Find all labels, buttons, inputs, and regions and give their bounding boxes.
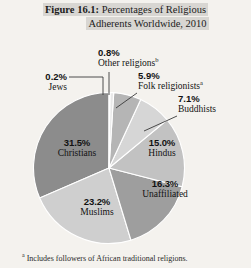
figure-footnote: a Includes followers of African traditio… [22, 253, 188, 264]
callout-other-religions: 0.8% Other religionsb [98, 47, 159, 69]
slice-label-unaffiliated: 16.3% Unaffiliated [129, 178, 201, 200]
slice-name-other-religions: Other religionsb [98, 58, 159, 69]
pie-chart [33, 92, 185, 244]
slice-value-jews: 0.2% [17, 71, 67, 82]
figure-number: Figure 16.1: [45, 4, 99, 15]
slice-value-other-religions: 0.8% [98, 47, 159, 58]
callout-jews: 0.2% Jews [17, 71, 67, 93]
slice-value-christians: 31.5% [40, 137, 114, 148]
figure-title-line-1: Figure 16.1: Percentages of Religious [0, 3, 251, 17]
slice-name-folk-religionists: Folk religionistsa [138, 81, 203, 92]
figure-title-text-1: Percentages of Religious [102, 4, 206, 15]
slice-name-unaffiliated: Unaffiliated [129, 189, 201, 200]
callout-buddhists: 7.1% Buddhists [178, 93, 216, 115]
slice-value-hindus: 15.0% [131, 137, 193, 148]
pie-chart-svg [33, 92, 185, 244]
folk-religionists-text: Folk religionists [138, 81, 200, 91]
slice-label-christians: 31.5% Christians [40, 137, 114, 159]
callout-folk-religionists: 5.9% Folk religionistsa [138, 70, 203, 92]
slice-name-christians: Christians [40, 148, 114, 159]
figure-title-line-2: Adherents Worldwide, 2010 [0, 17, 251, 31]
slice-name-muslims: Muslims [64, 207, 130, 218]
slice-label-muslims: 23.2% Muslims [64, 196, 130, 218]
folk-religionists-footnote-marker: a [200, 79, 203, 86]
slice-value-buddhists: 7.1% [178, 93, 216, 104]
slice-name-buddhists: Buddhists [178, 104, 216, 115]
slice-name-hindus: Hindus [131, 148, 193, 159]
slice-name-jews: Jews [17, 82, 67, 93]
other-religions-text: Other religions [98, 58, 155, 68]
other-religions-footnote-marker: b [155, 56, 158, 63]
slice-value-muslims: 23.2% [64, 196, 130, 207]
figure-title: Figure 16.1: Percentages of Religious Ad… [0, 3, 251, 31]
footnote-text: Includes followers of African traditiona… [27, 254, 188, 263]
figure-container: Figure 16.1: Percentages of Religious Ad… [0, 0, 251, 268]
slice-value-folk-religionists: 5.9% [138, 70, 203, 81]
footnote-marker: a [22, 252, 25, 258]
figure-title-text-2: Adherents Worldwide, 2010 [86, 17, 208, 30]
slice-value-unaffiliated: 16.3% [129, 178, 201, 189]
slice-label-hindus: 15.0% Hindus [131, 137, 193, 159]
